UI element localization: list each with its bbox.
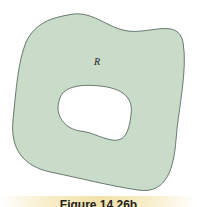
figure-caption: Figure 14.26b bbox=[0, 199, 197, 207]
region-r-shape bbox=[13, 14, 185, 191]
region-diagram bbox=[0, 0, 197, 207]
region-label: R bbox=[94, 56, 100, 67]
